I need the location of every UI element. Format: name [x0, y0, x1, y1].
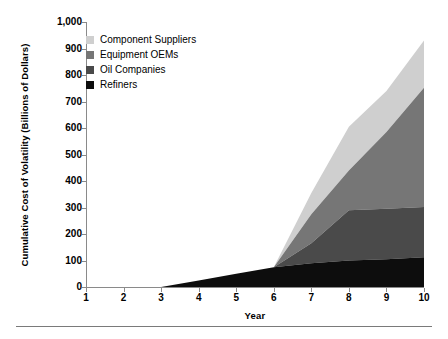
chart-figure: Cumulative Cost of Volatility (Billions … [0, 0, 448, 339]
legend-label: Refiners [100, 79, 137, 91]
legend-item: Component Suppliers [86, 33, 266, 47]
y-tick-label-group: 01002003004005006007008009001,000 [34, 0, 82, 339]
x-tick-label: 2 [109, 292, 139, 304]
y-tick-label: 800 [34, 70, 82, 80]
y-tick-label: 500 [34, 150, 82, 160]
area-band-refiners [86, 257, 424, 287]
legend-swatch-icon [86, 51, 94, 59]
x-tick-label: 4 [184, 292, 214, 304]
x-tick-label: 10 [409, 292, 439, 304]
legend-item: Oil Companies [86, 63, 266, 77]
footer-divider [16, 326, 432, 327]
x-tick-label: 5 [221, 292, 251, 304]
chart-legend: Component SuppliersEquipment OEMsOil Com… [86, 33, 266, 93]
y-tick-label: 400 [34, 176, 82, 186]
y-tick-label: 300 [34, 203, 82, 213]
x-tick-label: 8 [334, 292, 364, 304]
legend-item: Equipment OEMs [86, 48, 266, 62]
x-tick-label: 9 [371, 292, 401, 304]
legend-swatch-icon [86, 81, 94, 89]
y-tick-label: 1,000 [34, 17, 82, 27]
x-tick-label-group: 12345678910 [0, 292, 448, 306]
x-tick-label: 1 [71, 292, 101, 304]
y-tick-label: 0 [34, 282, 82, 292]
legend-label: Oil Companies [100, 64, 166, 76]
y-tick-label: 600 [34, 123, 82, 133]
x-tick-label: 3 [146, 292, 176, 304]
y-tick-label: 100 [34, 256, 82, 266]
x-axis-title: Year [86, 310, 424, 321]
y-tick-label: 700 [34, 97, 82, 107]
y-axis-title: Cumulative Cost of Volatility (Billions … [14, 10, 36, 300]
y-tick-label: 200 [34, 229, 82, 239]
legend-label: Component Suppliers [100, 34, 196, 46]
legend-label: Equipment OEMs [100, 49, 178, 61]
x-tick-label: 7 [296, 292, 326, 304]
x-tick-label: 6 [259, 292, 289, 304]
legend-item: Refiners [86, 78, 266, 92]
y-tick-label: 900 [34, 44, 82, 54]
legend-swatch-icon [86, 66, 94, 74]
legend-swatch-icon [86, 36, 94, 44]
